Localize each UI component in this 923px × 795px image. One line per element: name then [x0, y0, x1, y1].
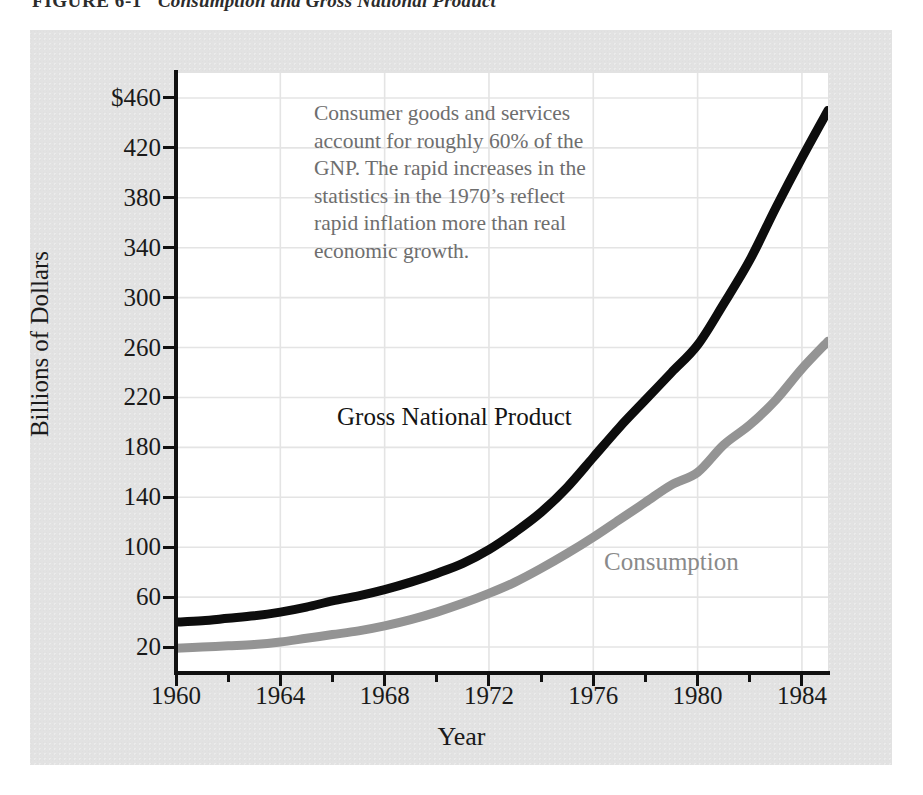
y-axis-tick-label: 380: [41, 185, 161, 210]
x-axis-minor-tick: [748, 672, 751, 682]
y-axis-tick: [163, 196, 177, 199]
x-axis-tick-label: 1972: [434, 682, 544, 710]
y-axis-tick-label: 220: [41, 384, 161, 409]
y-axis-tick-label: 20: [41, 634, 161, 659]
y-axis-tick: [163, 646, 177, 649]
x-axis-minor-tick: [644, 672, 647, 682]
y-axis-tick: [163, 396, 177, 399]
x-axis-tick-label: 1984: [747, 682, 857, 710]
series-label-consumption: Consumption: [604, 548, 739, 576]
y-axis-tick-label: 140: [41, 484, 161, 509]
y-axis-tick-label: 300: [41, 285, 161, 310]
y-axis-tick: [163, 146, 177, 149]
y-axis-tick: [163, 446, 177, 449]
y-axis-tick: [163, 496, 177, 499]
y-axis-tick-label: 60: [41, 584, 161, 609]
y-axis-line: [174, 70, 178, 675]
y-axis-tick: [163, 546, 177, 549]
x-axis-minor-tick: [331, 672, 334, 682]
y-axis-tick-label: 100: [41, 534, 161, 559]
x-axis-tick-label: 1964: [225, 682, 335, 710]
y-axis-tick: [163, 96, 177, 99]
y-axis-tick: [163, 246, 177, 249]
y-axis-tick-label: 180: [41, 434, 161, 459]
x-axis-title: Year: [0, 722, 923, 752]
x-axis-minor-tick: [227, 672, 230, 682]
y-axis-title: Billions of Dollars: [26, 194, 54, 494]
y-axis-tick: [163, 596, 177, 599]
x-axis-tick-label: 1980: [643, 682, 753, 710]
y-axis-tick-label: 340: [41, 235, 161, 260]
y-axis-tick: [163, 296, 177, 299]
y-axis-tick-label: 260: [41, 335, 161, 360]
x-axis-tick-label: 1968: [330, 682, 440, 710]
y-axis-tick: [163, 346, 177, 349]
series-line-consumption: [176, 341, 828, 648]
x-axis-minor-tick: [540, 672, 543, 682]
figure-title: Consumption and Gross National Product: [158, 0, 496, 11]
x-axis-line: [174, 671, 830, 675]
x-axis-tick-label: 1960: [121, 682, 231, 710]
figure-caption: FIGURE 6-1Consumption and Gross National…: [32, 0, 892, 12]
x-axis-tick-label: 1976: [538, 682, 648, 710]
figure-number: FIGURE 6-1: [32, 0, 142, 11]
series-label-gnp: Gross National Product: [337, 403, 572, 431]
y-axis-tick-label: 420: [41, 135, 161, 160]
chart-annotation-note: Consumer goods and services account for …: [314, 100, 604, 265]
y-axis-tick-label: $460: [41, 85, 161, 110]
x-axis-minor-tick: [435, 672, 438, 682]
